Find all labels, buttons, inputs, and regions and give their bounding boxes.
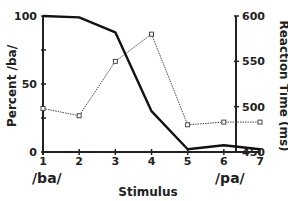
right-tick-label: 500 (242, 101, 265, 114)
square-marker-icon (222, 120, 226, 124)
left-tick-label: 0 (29, 146, 37, 159)
x-tick-label: 2 (75, 155, 83, 168)
square-marker-icon (77, 114, 81, 118)
x-endpoint-left-label: /ba/ (32, 170, 63, 186)
y-axis-right-title: Reaction Time (ms) (277, 20, 288, 151)
right-tick-label: 550 (242, 55, 265, 68)
x-tick-label: 3 (112, 155, 120, 168)
square-marker-icon (41, 106, 45, 110)
square-marker-icon (150, 32, 154, 36)
square-marker-icon (186, 123, 190, 127)
x-tick-label: 5 (184, 155, 192, 168)
x-tick-label: 6 (220, 155, 228, 168)
x-tick-label: 4 (148, 155, 156, 168)
square-marker-icon (258, 120, 262, 124)
x-tick-label: 1 (39, 155, 47, 168)
x-tick-label: 7 (256, 155, 264, 168)
x-endpoint-right-label: /pa/ (215, 170, 246, 186)
left-tick-label: 100 (14, 10, 37, 23)
x-axis-title: Stimulus (118, 185, 177, 199)
square-marker-icon (113, 59, 117, 63)
right-tick-label: 600 (242, 10, 265, 23)
axes (43, 16, 260, 155)
right-axis-ticks: 450500550600 (234, 10, 265, 159)
left-tick-label: 50 (22, 78, 38, 91)
y-axis-left-title: Percent /ba/ (5, 44, 19, 127)
line-chart: 050100 450500550600 1234567 Percent /ba/… (0, 0, 288, 201)
